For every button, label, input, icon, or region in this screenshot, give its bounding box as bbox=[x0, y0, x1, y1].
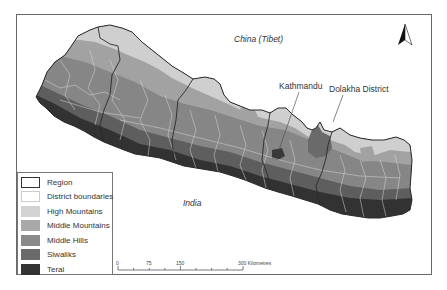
legend-item-middle-hills: Middle Hills bbox=[21, 234, 88, 246]
siwaliks-swatch bbox=[21, 249, 40, 260]
legend-item-high-mountains: High Mountains bbox=[21, 205, 103, 217]
china-label: China (Tibet) bbox=[234, 34, 283, 44]
legend-label: Siwaliks bbox=[47, 250, 76, 259]
scale-label-300: 300 Kilometres bbox=[238, 260, 271, 266]
middle-hills-swatch bbox=[21, 235, 40, 246]
legend-item-district-boundaries: District boundaries bbox=[21, 191, 113, 203]
legend-label: Middle Mountains bbox=[47, 221, 110, 230]
legend-label: Middle Hills bbox=[47, 236, 88, 245]
scale-label-75: 75 bbox=[146, 260, 152, 266]
legend-item-middle-mountains: Middle Mountains bbox=[21, 220, 110, 232]
legend-item-region: Region bbox=[21, 176, 72, 188]
terai-swatch bbox=[21, 264, 40, 275]
north-arrow-icon bbox=[398, 24, 412, 45]
scale-bar bbox=[118, 266, 243, 270]
legend-label: District boundaries bbox=[47, 192, 113, 201]
district-swatch bbox=[21, 191, 40, 202]
dolakha-label: Dolakha District bbox=[329, 84, 389, 94]
dolakha-leader-line bbox=[333, 95, 343, 122]
legend-label: High Mountains bbox=[47, 207, 103, 216]
legend-label: Region bbox=[47, 178, 72, 187]
legend-item-siwaliks: Siwaliks bbox=[21, 249, 76, 261]
scale-label-0: 0 bbox=[116, 260, 119, 266]
middle-mountains-swatch bbox=[21, 220, 40, 231]
scale-label-150: 150 bbox=[176, 260, 184, 266]
legend-label: Terai bbox=[47, 265, 64, 274]
kathmandu-label: Kathmandu bbox=[279, 81, 322, 91]
legend-item-terai: Terai bbox=[21, 263, 64, 275]
map-legend: Region District boundaries High Mountain… bbox=[17, 172, 113, 275]
india-label: India bbox=[183, 198, 201, 208]
region-swatch bbox=[21, 177, 40, 188]
high-mountains-swatch bbox=[21, 206, 40, 217]
